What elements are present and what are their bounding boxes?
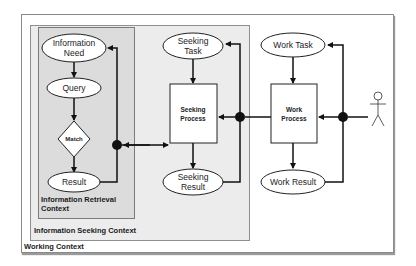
svg-text:Task: Task: [184, 46, 202, 56]
query-node: Query: [47, 78, 101, 98]
seeking-task-node: Seeking Task: [163, 33, 223, 59]
svg-text:Seeking: Seeking: [178, 36, 209, 46]
svg-text:Need: Need: [64, 48, 85, 58]
svg-text:Result: Result: [62, 177, 87, 187]
information-need-node: Information Need: [42, 34, 106, 62]
match-node: Match: [58, 121, 90, 157]
svg-text:Work: Work: [286, 106, 303, 113]
svg-text:Work Result: Work Result: [270, 177, 317, 187]
seeking-process-node: Seeking Process: [170, 84, 217, 143]
seeking-result-node: Seeking Result: [163, 169, 223, 195]
svg-text:Match: Match: [65, 136, 83, 142]
svg-text:Information: Information: [53, 38, 96, 48]
ir-junction: [112, 140, 122, 150]
result-node: Result: [48, 172, 100, 192]
svg-text:Work Task: Work Task: [273, 40, 313, 50]
person-icon: [370, 92, 386, 126]
svg-text:Seeking: Seeking: [178, 172, 209, 182]
svg-text:Process: Process: [180, 115, 206, 122]
work-task-node: Work Task: [261, 33, 325, 57]
svg-text:Result: Result: [181, 182, 206, 192]
work-result-node: Work Result: [261, 170, 325, 194]
svg-text:Process: Process: [281, 115, 307, 122]
svg-text:Seeking: Seeking: [181, 106, 206, 114]
svg-text:Query: Query: [62, 83, 86, 93]
work-process-node: Work Process: [271, 84, 317, 143]
diagram-canvas: Information Need Query Match Result Seek…: [0, 0, 416, 266]
